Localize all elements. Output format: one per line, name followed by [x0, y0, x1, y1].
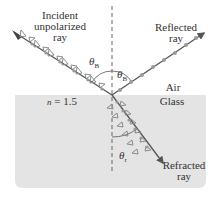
reflected-ray-label: Reflected ray	[146, 22, 206, 44]
air-label: Air	[158, 82, 188, 93]
theta-subscript: r	[124, 156, 126, 164]
theta-b-incident-label: θB	[89, 56, 99, 72]
theta-subscript: B	[94, 62, 99, 70]
theta-subscript: B	[122, 75, 127, 83]
glass-label: Glass	[154, 96, 190, 107]
theta-r-label: θr	[119, 150, 127, 166]
index-value: = 1.5	[54, 95, 77, 107]
incident-ray-label: Incident unpolarized ray	[30, 10, 90, 43]
incident-label-line3: ray	[30, 32, 90, 43]
reflected-label-line2: ray	[146, 33, 206, 44]
refracted-label-line2: ray	[158, 171, 210, 182]
refracted-ray-label: Refracted ray	[158, 160, 210, 182]
index-symbol: n	[47, 97, 52, 107]
refractive-index-label: n = 1.5	[47, 96, 77, 108]
theta-b-reflected-label: θB	[117, 69, 127, 85]
brewster-angle-diagram: Incident unpolarized ray Reflected ray R…	[0, 0, 221, 200]
